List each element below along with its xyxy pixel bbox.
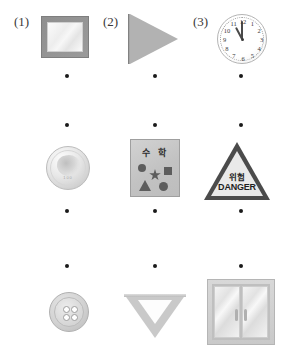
item-label-1: (1) <box>14 14 29 30</box>
symmetry-dot-r1-c2 <box>153 74 157 78</box>
math-book-object: 수 학 <box>130 139 180 197</box>
button-shape <box>49 292 89 332</box>
triangle-shape-icon <box>139 180 151 191</box>
symmetry-dot-r4-c3 <box>239 264 243 268</box>
flag-object <box>128 14 180 64</box>
symmetry-dot-r4-c2 <box>153 264 157 268</box>
mirror-object <box>41 16 89 58</box>
door-leaf-left <box>214 286 240 338</box>
clock-numeral-2: 2 <box>255 27 263 35</box>
coin-object: 100 <box>46 146 90 190</box>
circle-shape-icon <box>138 164 146 172</box>
symmetry-dot-r3-c2 <box>153 209 157 213</box>
symmetry-dot-r1-c1 <box>65 74 69 78</box>
worksheet-canvas: (1) (2) (3) 121234567891011 100 수 학 <box>0 0 290 345</box>
symmetry-dot-r1-c3 <box>239 74 243 78</box>
coin-inscription: 100 <box>47 175 89 180</box>
button-hole-4 <box>71 314 78 321</box>
button-hole-1 <box>63 306 70 313</box>
symmetry-dot-r2-c1 <box>65 123 69 127</box>
danger-sign-object: 위험 DANGER <box>204 142 270 200</box>
clock-numeral-3: 3 <box>258 36 266 44</box>
danger-sign-shape: 위험 DANGER <box>204 142 270 200</box>
symmetry-dot-r4-c1 <box>65 264 69 268</box>
item-label-2: (2) <box>103 14 118 30</box>
math-book-cover: 수 학 <box>130 139 180 197</box>
flag-pole <box>128 14 130 64</box>
square-shape-icon <box>164 167 172 175</box>
set-square-shape <box>124 294 186 338</box>
set-square-object <box>124 294 186 338</box>
clock-face: 121234567891011 <box>217 14 267 64</box>
clock-numeral-8: 8 <box>223 45 231 53</box>
item-label-3: (3) <box>193 14 208 30</box>
clock-numeral-5: 5 <box>248 52 256 60</box>
symmetry-dot-r2-c3 <box>239 123 243 127</box>
sign-korean-text: 위험 <box>204 170 270 182</box>
button-object <box>49 292 89 332</box>
clock-object: 121234567891011 <box>217 14 267 64</box>
sign-english-text: DANGER <box>204 182 270 192</box>
mirror-frame <box>41 16 89 58</box>
set-square-cutout <box>138 300 172 324</box>
coin-face-shape: 100 <box>46 146 90 190</box>
door-frame <box>207 279 275 345</box>
glass-door-object <box>207 279 275 345</box>
clock-center-pin <box>241 38 244 41</box>
button-inner-ring <box>54 297 84 327</box>
door-handle-right <box>244 309 247 321</box>
clock-numeral-12: 12 <box>239 18 247 26</box>
math-book-title: 수 학 <box>131 146 179 159</box>
clock-numeral-6: 6 <box>239 55 247 63</box>
circle-shape-icon-2 <box>159 182 168 191</box>
mirror-glass <box>47 22 83 52</box>
clock-numeral-11: 11 <box>230 20 238 28</box>
button-hole-3 <box>63 314 70 321</box>
door-handle-left <box>235 309 238 321</box>
door-leaf-right <box>242 286 268 338</box>
door-leaves <box>212 284 270 340</box>
symmetry-dot-r3-c3 <box>239 209 243 213</box>
symmetry-dot-r3-c1 <box>65 209 69 213</box>
flag-shape <box>128 14 180 64</box>
set-square-top-edge <box>124 294 186 297</box>
symmetry-dot-r2-c2 <box>153 123 157 127</box>
flag-triangle-icon <box>130 14 178 64</box>
button-hole-2 <box>71 306 78 313</box>
clock-numeral-9: 9 <box>221 36 229 44</box>
